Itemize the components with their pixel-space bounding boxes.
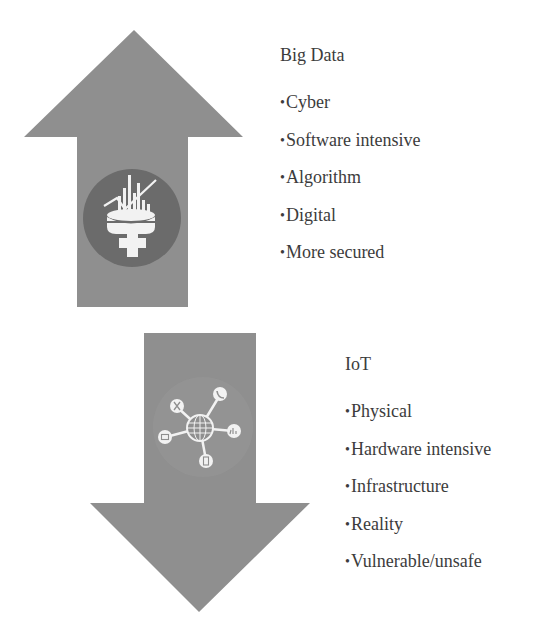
- list-item: •Vulnerable/unsafe: [345, 552, 491, 570]
- bullet-icon: •: [345, 442, 350, 457]
- phone-node-icon: [213, 387, 227, 401]
- database-analytics-icon: [83, 169, 181, 267]
- big-data-text-block: Big Data •Cyber •Software intensive •Alg…: [280, 46, 420, 281]
- iot-text-block: IoT •Physical •Hardware intensive •Infra…: [345, 355, 491, 590]
- chart-node-icon: [227, 424, 241, 438]
- list-item: •Digital: [280, 206, 420, 224]
- big-data-title: Big Data: [280, 46, 420, 64]
- bullet-icon: •: [280, 95, 285, 110]
- iot-arrow: [90, 333, 310, 612]
- list-item: •Algorithm: [280, 168, 420, 186]
- list-item: •Software intensive: [280, 131, 420, 149]
- list-item: •Reality: [345, 515, 491, 533]
- bullet-icon: •: [280, 170, 285, 185]
- list-item: •Infrastructure: [345, 477, 491, 495]
- iot-title: IoT: [345, 355, 491, 373]
- list-item: •Hardware intensive: [345, 440, 491, 458]
- iot-list: •Physical •Hardware intensive •Infrastru…: [345, 402, 491, 570]
- network-globe-icon: [153, 377, 253, 477]
- list-item: •Cyber: [280, 93, 420, 111]
- bullet-icon: •: [280, 245, 285, 260]
- bullet-icon: •: [280, 133, 285, 148]
- device-node-icon: [199, 454, 213, 468]
- bullet-icon: •: [345, 479, 350, 494]
- big-data-list: •Cyber •Software intensive •Algorithm •D…: [280, 93, 420, 261]
- bullet-icon: •: [280, 208, 285, 223]
- monitor-node-icon: [158, 430, 172, 444]
- big-data-arrow: [24, 30, 243, 307]
- bullet-icon: •: [345, 554, 350, 569]
- bullet-icon: •: [345, 404, 350, 419]
- list-item: •Physical: [345, 402, 491, 420]
- list-item: •More secured: [280, 243, 420, 261]
- bullet-icon: •: [345, 517, 350, 532]
